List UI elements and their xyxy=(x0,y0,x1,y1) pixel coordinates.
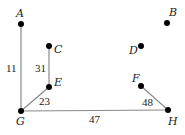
label-f: F xyxy=(131,72,140,85)
label-g: G xyxy=(16,115,25,128)
label-b: B xyxy=(168,6,177,19)
node-h xyxy=(165,107,171,113)
weight-g-h: 47 xyxy=(89,113,101,125)
node-c xyxy=(46,43,52,49)
weight-c-e: 31 xyxy=(35,62,46,74)
edge-g-h xyxy=(21,110,168,111)
weight-e-g: 23 xyxy=(39,95,51,107)
node-e xyxy=(46,84,52,90)
label-e: E xyxy=(53,76,62,89)
weight-a-g: 11 xyxy=(6,62,17,74)
weighted-graph-diagram: 11 31 23 47 48 A B C D E F G H xyxy=(0,0,185,135)
node-d xyxy=(138,43,144,49)
label-c: C xyxy=(54,43,63,56)
label-a: A xyxy=(15,7,24,20)
node-b xyxy=(164,20,170,26)
label-d: D xyxy=(128,44,138,57)
weight-f-h: 48 xyxy=(142,96,154,108)
node-g xyxy=(18,108,24,114)
node-a xyxy=(18,21,24,27)
label-h: H xyxy=(167,115,178,128)
